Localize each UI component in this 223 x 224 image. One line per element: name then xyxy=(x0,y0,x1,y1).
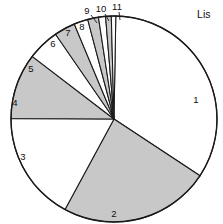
pie-slice-label-11: 11 xyxy=(112,1,122,12)
pie-chart-canvas: 1234567891011 xyxy=(0,0,223,224)
pie-slice-label-9: 9 xyxy=(84,5,89,16)
pie-chart-figure: 1234567891011 Lis xyxy=(0,0,223,224)
pie-slice-label-6: 6 xyxy=(50,38,55,49)
pie-slice-label-10: 10 xyxy=(96,3,107,14)
pie-slice-label-5: 5 xyxy=(28,63,33,74)
pie-slice-label-1: 1 xyxy=(193,94,198,105)
pie-slice-label-2: 2 xyxy=(111,208,116,219)
pie-slice-label-3: 3 xyxy=(20,151,25,162)
side-annotation-text: Lis xyxy=(197,8,211,20)
pie-slices-group xyxy=(11,16,217,222)
